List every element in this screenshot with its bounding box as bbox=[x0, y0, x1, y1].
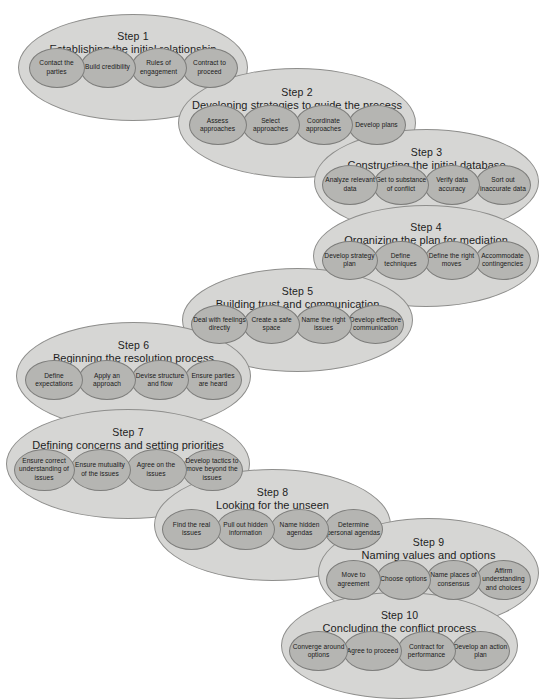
substep-label-1-3: Rules of engagement bbox=[133, 59, 185, 76]
substep-3-3: Verify data accuracy bbox=[424, 165, 480, 205]
substep-6-2: Apply an approach bbox=[78, 360, 136, 400]
substep-5-3: Name the right issues bbox=[295, 305, 352, 344]
substep-8-1: Find the real issues bbox=[162, 509, 221, 550]
substep-label-6-3: Devise structure and flow bbox=[133, 372, 187, 389]
substep-label-5-1: Deal with feelings directly bbox=[193, 316, 246, 333]
substep-label-9-2: Choose options bbox=[378, 575, 429, 583]
substep-5-4: Develop effective communication bbox=[347, 305, 404, 344]
substep-10-2: Agree to proceed bbox=[343, 631, 402, 671]
substep-9-1: Move to agreement bbox=[326, 560, 381, 600]
substep-6-3: Devise structure and flow bbox=[131, 360, 189, 400]
substep-10-3: Contract for performance bbox=[397, 631, 456, 671]
step-substep-row-7: Ensure correct understanding of issuesEn… bbox=[6, 449, 250, 491]
substep-3-1: Analyze relevant data bbox=[322, 165, 378, 205]
substep-1-1: Contact the parties bbox=[29, 48, 85, 88]
substep-label-10-3: Contract for performance bbox=[399, 643, 454, 660]
substep-label-7-3: Agree on the issues bbox=[128, 461, 185, 478]
substep-4-3: Define the right moves bbox=[424, 241, 480, 280]
substep-1-3: Rules of engagement bbox=[131, 48, 187, 88]
substep-label-7-4: Develop tactics to move beyond the issue… bbox=[184, 457, 241, 482]
step-substep-row-2: Assess approachesSelect approachesCoordi… bbox=[178, 105, 416, 145]
substep-label-6-1: Define expectations bbox=[27, 372, 81, 389]
substep-label-4-3: Define the right moves bbox=[426, 252, 478, 269]
substep-4-2: Define techniques bbox=[373, 241, 429, 280]
step-substep-row-1: Contact the partiesBuild credibilityRule… bbox=[18, 48, 248, 88]
substep-label-8-2: Pull out hidden information bbox=[218, 521, 273, 538]
substep-label-1-2: Build credibility bbox=[82, 63, 134, 71]
step-substep-row-10: Converge around optionsAgree to proceedC… bbox=[281, 631, 518, 671]
step-substep-row-4: Develop strategy planDefine techniquesDe… bbox=[313, 241, 539, 280]
substep-label-10-1: Converge around options bbox=[291, 643, 346, 660]
substep-label-4-1: Develop strategy plan bbox=[324, 252, 376, 269]
substep-7-3: Agree on the issues bbox=[126, 449, 187, 491]
substep-2-1: Assess approaches bbox=[189, 105, 247, 145]
substep-8-3: Name hidden agendas bbox=[270, 509, 329, 550]
substep-label-6-2: Apply an approach bbox=[80, 372, 134, 389]
substep-label-8-4: Determine personal agendas bbox=[326, 521, 381, 538]
step-substep-row-6: Define expectationsApply an approachDevi… bbox=[16, 360, 251, 400]
substep-6-4: Ensure parties are heard bbox=[184, 360, 242, 400]
substep-1-2: Build credibility bbox=[80, 48, 136, 88]
substep-7-4: Develop tactics to move beyond the issue… bbox=[182, 449, 243, 491]
substep-label-1-1: Contact the parties bbox=[31, 59, 83, 76]
substep-8-4: Determine personal agendas bbox=[324, 509, 383, 550]
substep-3-4: Sort out inaccurate data bbox=[475, 165, 531, 205]
substep-10-4: Develop an action plan bbox=[451, 631, 510, 671]
substep-1-4: Contract to proceed bbox=[182, 48, 238, 88]
substep-7-1: Ensure correct understanding of issues bbox=[14, 449, 75, 491]
step-substep-row-3: Analyze relevant dataGet to substance of… bbox=[314, 165, 539, 205]
step-group-10: Step 10Concluding the conflict processCo… bbox=[281, 592, 518, 699]
substep-label-4-4: Accommodate contingencies bbox=[477, 252, 529, 269]
substep-5-2: Create a safe space bbox=[243, 305, 300, 344]
substep-label-2-1: Assess approaches bbox=[191, 117, 245, 134]
substep-label-10-2: Agree to proceed bbox=[345, 647, 400, 655]
substep-label-10-4: Develop an action plan bbox=[453, 643, 508, 660]
substep-label-5-4: Develop effective communication bbox=[349, 316, 402, 333]
substep-label-7-2: Ensure mutuality of the issues bbox=[72, 461, 129, 478]
substep-label-9-3: Name places of consensus bbox=[428, 571, 479, 588]
substep-10-1: Converge around options bbox=[289, 631, 348, 671]
substep-2-2: Select approaches bbox=[242, 105, 300, 145]
substep-label-1-4: Contract to proceed bbox=[184, 59, 236, 76]
substep-label-5-2: Create a safe space bbox=[245, 316, 298, 333]
substep-3-2: Get to substance of conflict bbox=[373, 165, 429, 205]
substep-label-7-1: Ensure correct understanding of issues bbox=[16, 457, 73, 482]
substep-4-4: Accommodate contingencies bbox=[475, 241, 531, 280]
substep-label-8-3: Name hidden agendas bbox=[272, 521, 327, 538]
substep-4-1: Develop strategy plan bbox=[322, 241, 378, 280]
substep-9-2: Choose options bbox=[376, 560, 431, 600]
substep-label-2-3: Coordinate approaches bbox=[297, 117, 351, 134]
step-substep-row-8: Find the real issuesPull out hidden info… bbox=[154, 509, 391, 550]
substep-label-6-4: Ensure parties are heard bbox=[186, 372, 240, 389]
substep-label-2-2: Select approaches bbox=[244, 117, 298, 134]
substep-9-3: Name places of consensus bbox=[426, 560, 481, 600]
substep-label-2-4: Develop plans bbox=[350, 121, 404, 129]
substep-label-3-2: Get to substance of conflict bbox=[375, 176, 427, 193]
substep-9-4: Affirm understanding and choices bbox=[476, 560, 531, 600]
substep-2-3: Coordinate approaches bbox=[295, 105, 353, 145]
substep-label-3-4: Sort out inaccurate data bbox=[477, 176, 529, 193]
conflict-mediation-process-diagram: Step 1Establishing the initial relations… bbox=[0, 0, 539, 699]
substep-7-2: Ensure mutuality of the issues bbox=[70, 449, 131, 491]
substep-label-3-3: Verify data accuracy bbox=[426, 176, 478, 193]
substep-label-3-1: Analyze relevant data bbox=[324, 176, 376, 193]
substep-label-9-4: Affirm understanding and choices bbox=[478, 567, 529, 592]
substep-label-4-2: Define techniques bbox=[375, 252, 427, 269]
step-substep-row-5: Deal with feelings directlyCreate a safe… bbox=[182, 305, 413, 344]
substep-label-8-1: Find the real issues bbox=[164, 521, 219, 538]
substep-label-5-3: Name the right issues bbox=[297, 316, 350, 333]
substep-2-4: Develop plans bbox=[348, 105, 406, 145]
substep-5-1: Deal with feelings directly bbox=[191, 305, 248, 344]
substep-8-2: Pull out hidden information bbox=[216, 509, 275, 550]
substep-6-1: Define expectations bbox=[25, 360, 83, 400]
substep-label-9-1: Move to agreement bbox=[328, 571, 379, 588]
